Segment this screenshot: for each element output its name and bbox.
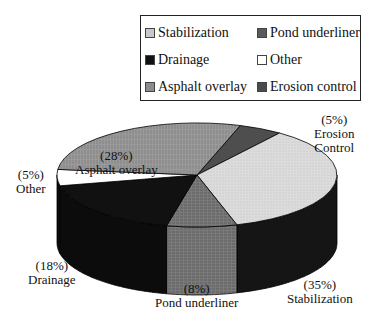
label-name: Drainage: [28, 273, 76, 287]
label-name: Control: [314, 141, 354, 155]
label-pct: (18%): [28, 259, 76, 273]
label-pct: (5%): [16, 168, 46, 182]
label-asphalt-overlay: (28%) Asphalt overlay: [75, 149, 158, 177]
label-name: Erosion: [314, 127, 354, 141]
label-name: Asphalt overlay: [75, 163, 158, 177]
label-other: (5%) Other: [16, 168, 46, 196]
label-pct: (35%): [287, 278, 353, 292]
pie-side-other: [57, 175, 60, 254]
label-stabilization: (35%) Stabilization: [287, 278, 353, 306]
label-pct: (5%): [314, 113, 354, 127]
label-pond-underliner: (8%) Pond underliner: [155, 282, 238, 310]
label-name: Pond underliner: [155, 296, 238, 310]
label-name: Other: [16, 182, 46, 196]
label-pct: (8%): [155, 282, 238, 296]
label-pct: (28%): [75, 149, 158, 163]
label-name: Stabilization: [287, 292, 353, 306]
label-erosion-control: (5%) Erosion Control: [314, 113, 354, 155]
label-drainage: (18%) Drainage: [28, 259, 76, 287]
